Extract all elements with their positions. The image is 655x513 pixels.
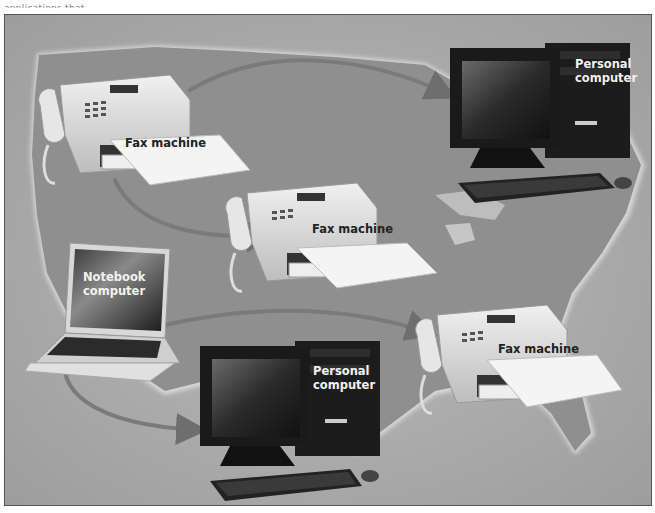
us-map-background xyxy=(5,15,652,506)
label-personal-computer-2: Personal computer xyxy=(313,364,375,392)
label-personal-computer-1: Personal computer xyxy=(575,57,637,85)
label-fax-machine-3: Fax machine xyxy=(498,342,579,356)
diagram-frame: Fax machine Personal computer Fax machin… xyxy=(4,14,652,506)
label-fax-machine-1: Fax machine xyxy=(125,136,206,150)
caption-fragment: applications that... xyxy=(4,0,114,8)
fax-machine-3 xyxy=(416,305,622,413)
label-notebook-computer: Notebook computer xyxy=(83,270,146,298)
label-fax-machine-2: Fax machine xyxy=(312,222,393,236)
